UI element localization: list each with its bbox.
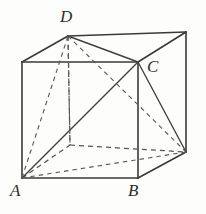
cube-edge-top-left-receding xyxy=(22,36,68,62)
tetra-edge-C-D xyxy=(68,36,138,62)
cube-hidden-edge-bottom-left-receding xyxy=(22,145,70,178)
cube-edge-top-right-receding xyxy=(138,32,186,62)
tetra-edge-C-backbottomright xyxy=(138,62,186,152)
vertex-label-C: C xyxy=(147,58,158,75)
geometry-figure: A B C D xyxy=(0,0,206,214)
cube-edge-bottom-right-receding xyxy=(138,152,186,178)
tetra-edge-A-C xyxy=(22,62,138,178)
cube-edge-back-top xyxy=(68,32,186,36)
cube-tetrahedron-svg xyxy=(0,0,206,214)
vertex-label-D: D xyxy=(60,8,72,25)
tetra-edge-D-backbottomright xyxy=(68,36,186,152)
vertex-label-B: B xyxy=(128,182,138,199)
vertex-label-A: A xyxy=(10,182,20,199)
cube-hidden-edge-back-bottom xyxy=(70,145,186,152)
